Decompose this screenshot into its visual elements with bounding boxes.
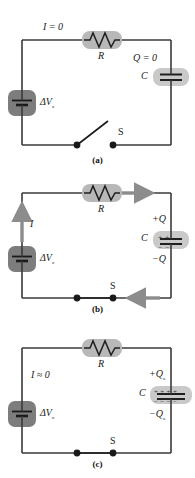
battery-label-c-sub: ₒ — [52, 411, 54, 420]
charge-bottom-label-c-sub: ₒ — [163, 412, 165, 421]
charge-top-label-c: +Qₒ — [149, 368, 165, 381]
charge-top-label-c-sub: ₒ — [163, 372, 165, 381]
battery-b — [8, 246, 36, 272]
switch-label-c: S — [110, 435, 116, 446]
battery-label-a: ΔVₒ — [40, 96, 54, 109]
charge-label-a: Q = 0 — [133, 52, 157, 63]
current-label-b: I — [30, 218, 33, 229]
capacitor-label-a: C — [141, 70, 148, 81]
switch-a[interactable] — [74, 121, 117, 148]
resistor-label-b: R — [98, 203, 104, 214]
charge-top-label-b: +Q — [152, 213, 166, 224]
capacitor-top-charges-c: + + + + — [154, 388, 177, 396]
resistor-b — [82, 184, 122, 202]
resistor-a — [82, 31, 122, 49]
circuit-panel-b: I R +Q C + + − − −Q ΔVₒ S (b) — [0, 168, 195, 323]
battery-c — [8, 401, 36, 427]
battery-label-a-sub: ₒ — [52, 100, 54, 109]
current-label-a: I = 0 — [43, 21, 63, 32]
battery-a — [8, 90, 36, 116]
capacitor-label-c: C — [139, 387, 146, 398]
capacitor-a — [153, 68, 189, 86]
switch-b[interactable] — [74, 295, 117, 302]
circuit-diagram-a — [0, 0, 195, 168]
capacitor-top-charges-b: + + — [158, 233, 170, 242]
battery-label-a-text: ΔV — [40, 96, 52, 107]
circuit-panel-c: I ≈ 0 R +Qₒ C + + + + − − − − −Qₒ ΔVₒ S … — [0, 323, 195, 478]
switch-c[interactable] — [74, 450, 117, 457]
panel-caption-c: (c) — [0, 459, 195, 469]
battery-label-b-text: ΔV — [40, 252, 52, 263]
battery-label-b-sub: ₒ — [52, 256, 54, 265]
resistor-label-c: R — [98, 358, 104, 369]
capacitor-bottom-charges-b: − − — [158, 243, 170, 252]
panel-caption-b: (b) — [0, 304, 195, 314]
battery-label-c: ΔVₒ — [40, 407, 54, 420]
charge-bottom-label-c-text: −Q — [149, 408, 163, 419]
switch-label-b: S — [110, 280, 116, 291]
battery-label-b: ΔVₒ — [40, 252, 54, 265]
capacitor-label-b: C — [141, 232, 148, 243]
circuit-panel-a: I = 0 R Q = 0 C ΔVₒ S (a) — [0, 0, 195, 168]
current-label-c: I ≈ 0 — [31, 369, 50, 380]
panel-caption-a: (a) — [0, 155, 195, 165]
charge-bottom-label-b: −Q — [152, 253, 166, 264]
current-arrows-b — [22, 193, 160, 298]
resistor-c — [82, 339, 122, 357]
wire-loop-b — [22, 193, 171, 298]
battery-label-c-text: ΔV — [40, 407, 52, 418]
capacitor-bottom-charges-c: − − − − — [154, 398, 177, 406]
charge-top-label-c-text: +Q — [149, 368, 163, 379]
switch-label-a: S — [118, 126, 124, 137]
wire-loop-c — [22, 348, 171, 453]
resistor-label-a: R — [98, 50, 104, 61]
charge-bottom-label-c: −Qₒ — [149, 408, 165, 421]
